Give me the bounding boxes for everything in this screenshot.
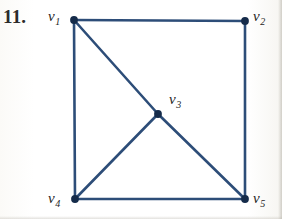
vertex-v3-label-subscript: 3	[176, 99, 182, 110]
vertex-v5-label: v5	[253, 191, 265, 209]
edge-layer	[74, 20, 245, 199]
graph-canvas	[0, 0, 282, 219]
vertex-v4-label-base: v	[48, 190, 55, 206]
vertex-v1-dot	[70, 16, 78, 24]
vertex-v2-dot	[241, 17, 249, 25]
vertex-v4-label-subscript: 4	[55, 198, 61, 209]
vertex-v3-label: v3	[169, 92, 181, 110]
edge-v1-v3	[74, 20, 158, 114]
vertex-v3-dot	[154, 110, 162, 118]
edge-v3-v5	[158, 114, 245, 199]
vertex-v2-label-base: v	[253, 8, 260, 24]
edge-v3-v4	[75, 114, 158, 199]
vertex-v3-label-base: v	[169, 91, 176, 107]
vertex-v5-label-base: v	[253, 190, 260, 206]
vertex-v5-dot	[241, 195, 249, 203]
figure-page: 11. v1v2v3v4v5	[0, 0, 282, 219]
vertex-v2-label-subscript: 2	[260, 16, 266, 27]
vertex-v4-dot	[71, 195, 79, 203]
edge-v1-v2	[74, 20, 245, 21]
vertex-v1-label: v1	[48, 9, 60, 27]
vertex-v1-label-base: v	[48, 8, 55, 24]
vertex-v2-label: v2	[253, 9, 265, 27]
vertex-v1-label-subscript: 1	[55, 16, 61, 27]
vertex-v5-label-subscript: 5	[260, 198, 266, 209]
vertex-v4-label: v4	[48, 191, 60, 209]
graph-figure	[0, 0, 282, 219]
edge-v1-v4	[74, 20, 75, 199]
